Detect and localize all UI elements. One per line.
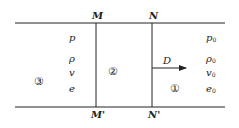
label-M: M bbox=[91, 10, 104, 21]
var-p0: p0 bbox=[206, 32, 216, 43]
var-e0: e0 bbox=[206, 83, 216, 94]
var-rho0: ρ0 bbox=[205, 53, 216, 64]
var-v: v bbox=[69, 67, 75, 78]
label-N: N bbox=[148, 10, 159, 21]
label-M-prime: M' bbox=[90, 109, 105, 120]
region-3-marker: ③ bbox=[34, 75, 44, 88]
region-1-marker: ① bbox=[170, 82, 180, 95]
region-2-marker: ② bbox=[108, 65, 118, 78]
var-e: e bbox=[69, 83, 75, 94]
arrow-label-D: D bbox=[162, 55, 171, 66]
shock-diagram: M N M' N' p ρ v e ③ ② ① D p0 ρ0 v0 e0 bbox=[0, 0, 239, 128]
label-N-prime: N' bbox=[147, 109, 160, 120]
var-rho: ρ bbox=[68, 53, 75, 64]
var-v0: v0 bbox=[206, 67, 216, 78]
var-p: p bbox=[69, 32, 76, 43]
